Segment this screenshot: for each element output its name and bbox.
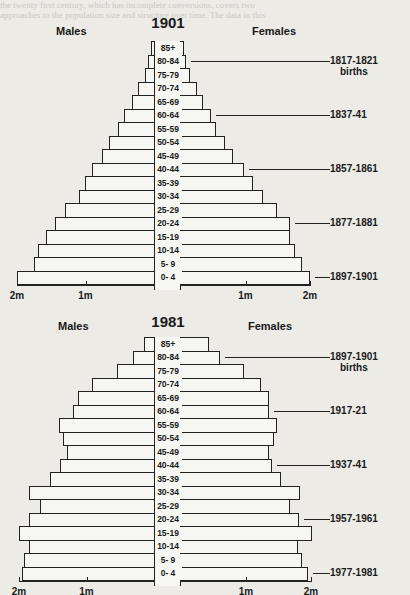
- age-group-label: 60-64: [155, 405, 182, 418]
- male-bar: [40, 499, 155, 514]
- age-group-label: 50-54: [155, 432, 182, 445]
- annotation-leader-line: [313, 573, 330, 574]
- age-group-label: 55-59: [155, 419, 182, 432]
- age-group-label: 70-74: [155, 378, 182, 391]
- male-bar: [29, 486, 155, 501]
- male-bar: [22, 567, 155, 582]
- age-group-label: 25-29: [155, 500, 182, 513]
- age-group-label: 30-34: [155, 486, 182, 499]
- female-bar: [181, 526, 312, 541]
- age-group-label: 15-19: [155, 527, 182, 540]
- male-bar: [19, 526, 155, 541]
- males-label: Males: [58, 320, 89, 332]
- male-bar: [78, 391, 155, 406]
- cohort-annotation: 1957-1961: [330, 513, 378, 524]
- female-bar: [181, 486, 300, 501]
- females-label: Females: [248, 320, 292, 332]
- age-group-label: 20-24: [155, 513, 182, 526]
- annotation-leader-line: [277, 465, 330, 466]
- male-bar: [73, 405, 155, 420]
- annotation-leader-line: [304, 519, 330, 520]
- age-group-label: 75-79: [155, 365, 182, 378]
- pyramid-title: 1981: [138, 313, 198, 330]
- axis-tick: [311, 577, 312, 582]
- male-bar: [92, 378, 155, 393]
- age-group-label: 85+: [155, 338, 182, 351]
- pyramid-1981: 1981 Males Females 2m 1m 1m 2m 85+80-847…: [0, 0, 410, 595]
- female-bar: [181, 513, 299, 528]
- female-bar: [181, 432, 274, 447]
- cohort-annotation: 1917-21: [330, 405, 367, 416]
- axis-tick-right-1m: 1m: [231, 586, 261, 595]
- male-bar: [59, 418, 155, 433]
- female-bar: [181, 567, 308, 582]
- male-bar: [50, 472, 155, 487]
- female-bar: [181, 405, 269, 420]
- axis-tick-left-1m: 1m: [72, 586, 102, 595]
- female-bar: [181, 459, 272, 474]
- age-group-label: 65-69: [155, 392, 182, 405]
- axis-tick-left-2m: 2m: [4, 586, 34, 595]
- female-bar: [181, 418, 277, 433]
- axis-tick: [246, 577, 247, 582]
- age-group-label: 10-14: [155, 540, 182, 553]
- axis-tick: [19, 577, 20, 582]
- male-bar: [63, 432, 155, 447]
- age-group-label: 35-39: [155, 473, 182, 486]
- male-bar: [29, 513, 155, 528]
- male-bar: [133, 351, 155, 366]
- cohort-annotation-subtext: births: [330, 362, 378, 373]
- female-bar: [181, 337, 209, 352]
- female-bar: [181, 391, 269, 406]
- axis-tick-right-2m: 2m: [296, 586, 326, 595]
- female-bar: [181, 553, 302, 568]
- male-bar: [24, 553, 155, 568]
- female-bar: [181, 364, 244, 379]
- cohort-annotation: 1897-1901births: [330, 351, 378, 373]
- annotation-leader-line: [274, 411, 330, 412]
- age-group-label: 80-84: [155, 351, 182, 364]
- male-bar: [117, 364, 155, 379]
- male-bar: [29, 540, 155, 555]
- female-bar: [181, 499, 290, 514]
- annotation-leader-line: [225, 357, 330, 358]
- age-group-label: 45-49: [155, 446, 182, 459]
- male-bar: [144, 337, 155, 352]
- male-bar: [60, 459, 155, 474]
- female-bar: [181, 472, 281, 487]
- age-group-label: 0- 4: [155, 567, 182, 580]
- female-bar: [181, 445, 269, 460]
- cohort-annotation: 1977-1981: [330, 567, 378, 578]
- female-bar: [181, 351, 220, 366]
- age-group-label: 40-44: [155, 459, 182, 472]
- female-bar: [181, 378, 261, 393]
- male-bar: [67, 445, 155, 460]
- axis-tick: [87, 577, 88, 582]
- female-bar: [181, 540, 298, 555]
- age-group-label: 5- 9: [155, 554, 182, 567]
- cohort-annotation: 1937-41: [330, 459, 367, 470]
